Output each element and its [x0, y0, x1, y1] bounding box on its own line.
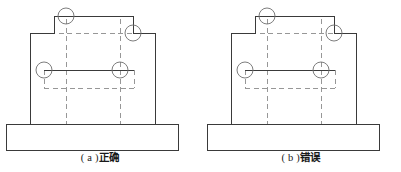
figure-b-outline	[207, 16, 379, 150]
figure-a-drawing	[0, 0, 200, 152]
figure-a-outline	[6, 16, 178, 150]
figure-b-caption-text: 错误	[300, 152, 320, 163]
callout-circle-left-slot-corner[interactable]	[237, 62, 253, 78]
part-base-outline	[207, 124, 379, 150]
figure-a-caption-label: ( a )	[81, 152, 99, 163]
figure-a-caption-text: 正确	[99, 152, 119, 163]
callout-circle-top-step-corner[interactable]	[58, 8, 74, 24]
figure-a-callouts	[36, 8, 141, 78]
callout-circle-right-slot-corner[interactable]	[112, 62, 128, 78]
figure-page: ( a )正确 ( b )错误	[0, 0, 401, 172]
callout-circle-right-slot-corner[interactable]	[313, 62, 329, 78]
figure-b-callouts	[237, 8, 342, 78]
part-base-outline	[6, 124, 178, 150]
callout-circle-top-step-corner[interactable]	[259, 8, 275, 24]
figure-b-caption-label: ( b )	[282, 152, 301, 163]
figure-b-caption: ( b )错误	[201, 151, 401, 165]
callout-circle-left-slot-corner[interactable]	[36, 62, 52, 78]
figure-b-drawing	[201, 0, 401, 152]
figure-b: ( b )错误	[201, 0, 401, 172]
figure-a: ( a )正确	[0, 0, 200, 172]
callout-circle-right-step-corner[interactable]	[125, 25, 141, 41]
figure-a-caption: ( a )正确	[0, 151, 200, 165]
callout-circle-right-step-corner[interactable]	[326, 25, 342, 41]
